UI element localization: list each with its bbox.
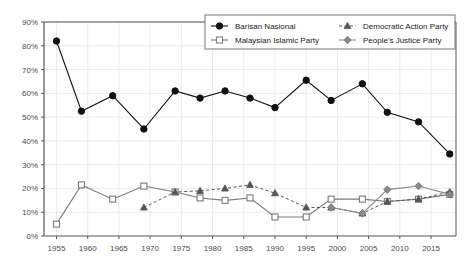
data-point — [222, 197, 228, 203]
x-tick-label: 1980 — [204, 244, 222, 253]
data-point — [359, 196, 365, 202]
y-tick-label: 30% — [22, 161, 38, 170]
legend-label: Democratic Action Party — [363, 22, 448, 31]
data-point — [53, 221, 59, 227]
data-point — [222, 88, 228, 94]
x-tick-label: 2015 — [422, 244, 440, 253]
y-tick-label: 90% — [22, 18, 38, 27]
x-tick-label: 1995 — [297, 244, 315, 253]
x-tick-label: 1970 — [141, 244, 159, 253]
x-tick-label: 1960 — [79, 244, 97, 253]
y-tick-label: 40% — [22, 137, 38, 146]
y-tick-label: 80% — [22, 42, 38, 51]
legend-marker — [216, 23, 222, 29]
plot-area — [44, 22, 456, 236]
x-tick-label: 1990 — [266, 244, 284, 253]
chart-container: 0%10%20%30%40%50%60%70%80%90%19551960196… — [0, 0, 472, 265]
data-point — [415, 119, 421, 125]
data-point — [303, 214, 309, 220]
data-point — [303, 77, 309, 83]
data-point — [328, 97, 334, 103]
x-tick-label: 2000 — [328, 244, 346, 253]
y-tick-label: 0% — [26, 232, 38, 241]
x-tick-label: 1965 — [110, 244, 128, 253]
x-tick-label: 1985 — [235, 244, 253, 253]
data-point — [109, 93, 115, 99]
chart-legend: Barisan NasionalDemocratic Action PartyM… — [205, 15, 455, 49]
data-point — [197, 195, 203, 201]
data-point — [78, 182, 84, 188]
data-point — [110, 196, 116, 202]
line-chart: 0%10%20%30%40%50%60%70%80%90%19551960196… — [0, 0, 472, 265]
data-point — [53, 38, 59, 44]
legend-label: People's Justice Party — [363, 36, 441, 45]
data-point — [247, 195, 253, 201]
data-point — [172, 88, 178, 94]
data-point — [447, 151, 453, 157]
x-tick-label: 2005 — [360, 244, 378, 253]
x-tick-label: 2010 — [391, 244, 409, 253]
x-tick-label: 1975 — [172, 244, 190, 253]
data-point — [272, 214, 278, 220]
x-tick-label: 1955 — [48, 244, 66, 253]
data-point — [141, 126, 147, 132]
y-tick-label: 50% — [22, 113, 38, 122]
data-point — [197, 95, 203, 101]
data-point — [272, 104, 278, 110]
data-point — [247, 95, 253, 101]
data-point — [359, 81, 365, 87]
data-point — [78, 108, 84, 114]
legend-label: Barisan Nasional — [235, 22, 296, 31]
y-tick-label: 60% — [22, 89, 38, 98]
data-point — [141, 183, 147, 189]
data-point — [328, 196, 334, 202]
data-point — [384, 109, 390, 115]
y-tick-label: 70% — [22, 66, 38, 75]
legend-label: Malaysian Islamic Party — [235, 36, 319, 45]
legend-marker — [217, 37, 223, 43]
y-tick-label: 20% — [22, 184, 38, 193]
y-tick-label: 10% — [22, 208, 38, 217]
